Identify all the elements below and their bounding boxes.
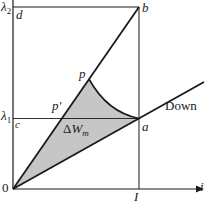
label-i-axis: i bbox=[200, 180, 204, 193]
label-down: Down bbox=[165, 99, 197, 112]
label-point-a: a bbox=[142, 120, 149, 133]
label-lambda2: λ2 bbox=[1, 0, 11, 13]
label-point-d: d bbox=[16, 8, 23, 21]
lambda-i-energy-diagram: λ2 d b p p′ λ1 c a ΔWm Down 0 I i bbox=[0, 0, 206, 202]
label-origin: 0 bbox=[2, 181, 9, 194]
label-point-c: c bbox=[15, 119, 20, 130]
label-current-I: I bbox=[134, 190, 138, 202]
label-delta-wm: ΔWm bbox=[63, 122, 89, 135]
label-point-p: p bbox=[79, 67, 86, 80]
origin-to-b-line bbox=[13, 7, 139, 189]
label-point-p-prime: p′ bbox=[52, 99, 61, 112]
label-lambda1: λ1 bbox=[1, 109, 11, 122]
label-point-b: b bbox=[142, 1, 149, 14]
